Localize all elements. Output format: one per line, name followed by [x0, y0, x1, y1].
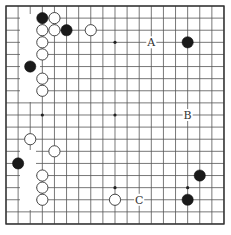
- white-stone: [37, 49, 48, 60]
- star-point: [113, 113, 116, 116]
- white-stone: [49, 13, 60, 24]
- white-stone: [109, 194, 120, 205]
- stones-layer: [13, 13, 206, 206]
- black-stone: [13, 158, 24, 169]
- star-point: [41, 113, 44, 116]
- white-stone: [37, 85, 48, 96]
- star-point: [113, 186, 116, 189]
- point-label-b: B: [184, 109, 192, 122]
- go-board-diagram: ABC: [0, 0, 231, 235]
- point-label-c: C: [135, 194, 143, 207]
- white-stone: [37, 73, 48, 84]
- black-stone: [61, 25, 72, 36]
- star-point: [113, 41, 116, 44]
- star-point: [186, 186, 189, 189]
- white-stone: [49, 25, 60, 36]
- white-stone: [49, 146, 60, 157]
- go-board: ABC: [0, 0, 231, 235]
- white-stone: [37, 194, 48, 205]
- white-stone: [37, 170, 48, 181]
- white-stone: [37, 37, 48, 48]
- white-stone: [25, 134, 36, 145]
- point-label-a: A: [146, 36, 156, 49]
- black-stone: [182, 194, 193, 205]
- erased-area: [20, 150, 36, 210]
- black-stone: [25, 61, 36, 72]
- white-stone: [37, 25, 48, 36]
- black-stone: [182, 37, 193, 48]
- white-stone: [37, 182, 48, 193]
- white-stone: [85, 25, 96, 36]
- black-stone: [194, 170, 205, 181]
- black-stone: [37, 13, 48, 24]
